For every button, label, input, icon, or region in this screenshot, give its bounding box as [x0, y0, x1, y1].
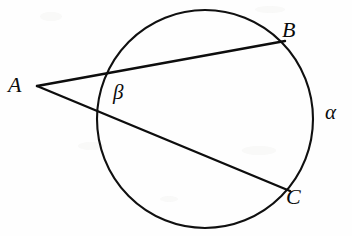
- point-label-a: A: [8, 74, 21, 96]
- arc-label-alpha: α: [325, 102, 336, 123]
- secant-line-ab: [37, 41, 285, 86]
- point-label-c: C: [286, 186, 301, 208]
- geometry-diagram: A B C α β: [0, 0, 352, 236]
- angle-label-beta: β: [113, 82, 123, 103]
- point-label-b: B: [282, 19, 295, 41]
- secant-line-ac: [37, 86, 290, 191]
